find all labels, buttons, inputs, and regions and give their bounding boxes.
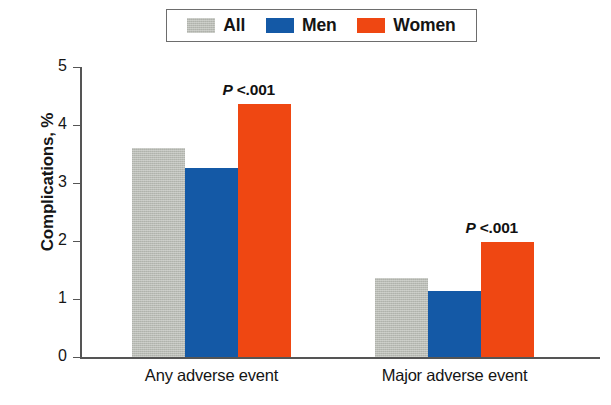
x-axis-line	[80, 357, 600, 359]
p-value-text-major: <.001	[476, 219, 518, 236]
legend-label-women: Women	[393, 15, 455, 36]
p-value-annotation-any: P <.001	[223, 81, 275, 99]
legend-item-men: Men	[266, 15, 337, 36]
legend-label-all: All	[223, 15, 245, 36]
legend-label-men: Men	[302, 15, 337, 36]
y-tick-label-2: 2	[47, 231, 67, 249]
p-value-text-any: <.001	[233, 81, 275, 98]
y-tick-label-3: 3	[47, 173, 67, 191]
legend-swatch-men-icon	[266, 18, 294, 33]
y-tick-label-5: 5	[47, 57, 67, 75]
x-axis-label-major-adverse-event: Major adverse event	[340, 366, 570, 385]
p-value-annotation-major: P <.001	[466, 219, 518, 237]
bar-men-major	[428, 291, 481, 357]
y-tick-label-0: 0	[47, 347, 67, 365]
bar-women-any	[238, 104, 291, 357]
plot-area	[80, 67, 600, 357]
bar-all-major	[375, 278, 428, 357]
y-tick-label-1: 1	[47, 289, 67, 307]
y-tick-label-4: 4	[47, 115, 67, 133]
x-axis-label-any-adverse-event: Any adverse event	[97, 366, 327, 385]
bar-all-any	[132, 148, 185, 357]
legend-swatch-all-icon	[187, 18, 215, 33]
p-value-symbol-major: P	[466, 219, 476, 236]
p-value-symbol-any: P	[223, 81, 233, 98]
legend-item-all: All	[187, 15, 245, 36]
bar-women-major	[481, 242, 534, 357]
legend-item-women: Women	[357, 15, 455, 36]
bar-chart: All Men Women Complications, % 5 4 3 2 1…	[0, 0, 611, 405]
legend-swatch-women-icon	[357, 18, 385, 33]
bar-men-any	[185, 168, 238, 357]
chart-legend: All Men Women	[166, 9, 477, 42]
y-tick-mark-0	[73, 357, 81, 358]
